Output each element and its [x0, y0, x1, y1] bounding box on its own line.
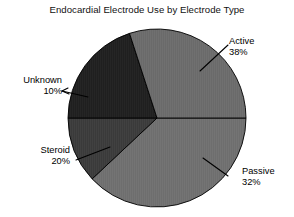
callout-passive-label: Passive: [242, 166, 275, 177]
callout-steroid-value: 20%: [10, 156, 70, 167]
callout-unknown-value: 10%: [2, 86, 62, 97]
callout-unknown: Unknown 10%: [2, 75, 62, 98]
callout-steroid: Steroid 20%: [10, 145, 70, 168]
callout-passive: Passive 32%: [242, 166, 275, 189]
callout-passive-value: 32%: [242, 177, 275, 188]
callout-active-label: Active: [229, 36, 254, 47]
pie-chart-figure: Endocardial Electrode Use by Electrode T…: [0, 0, 294, 217]
callout-steroid-label: Steroid: [10, 145, 70, 156]
callout-unknown-label: Unknown: [2, 75, 62, 86]
leader-line-unknown-arrowhead: [62, 88, 69, 94]
callout-active-value: 38%: [229, 47, 254, 58]
callout-active: Active 38%: [229, 36, 254, 59]
